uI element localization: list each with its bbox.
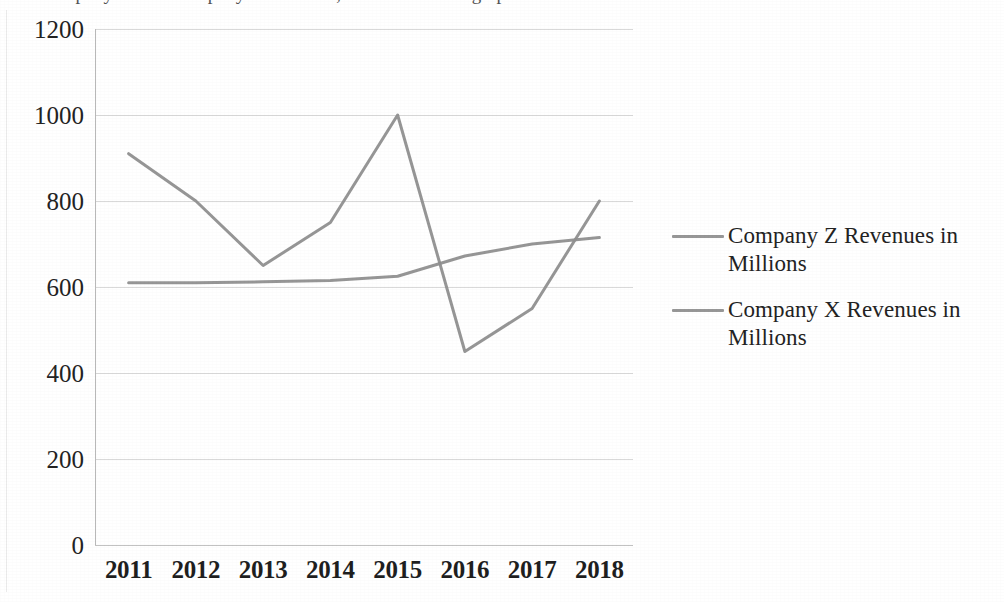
x-tick-label-2017: 2017 bbox=[499, 557, 566, 591]
legend-line-swatch-company-x bbox=[672, 309, 724, 312]
document-page: Company X and Company Z revenues, as sho… bbox=[0, 0, 1004, 602]
legend-item-company-z: Company Z Revenues in Millions bbox=[672, 222, 992, 278]
x-tick-label-2013: 2013 bbox=[230, 557, 297, 591]
x-axis-labels: 2011 2012 2013 2014 2015 2016 2017 2018 bbox=[95, 557, 633, 591]
x-tick-label-2012: 2012 bbox=[162, 557, 229, 591]
x-tick-label-2018: 2018 bbox=[566, 557, 633, 591]
x-tick-label-2015: 2015 bbox=[364, 557, 431, 591]
series-line-2 bbox=[129, 238, 600, 283]
x-tick-label-2016: 2016 bbox=[431, 557, 498, 591]
legend-label-company-x: Company X Revenues in Millions bbox=[728, 296, 978, 352]
x-tick-label-2011: 2011 bbox=[95, 557, 162, 591]
legend-line-swatch-company-z bbox=[672, 235, 724, 238]
legend-item-company-x: Company X Revenues in Millions bbox=[672, 296, 992, 352]
x-tick-label-2014: 2014 bbox=[297, 557, 364, 591]
series-line-1 bbox=[129, 115, 600, 352]
legend-label-company-z: Company Z Revenues in Millions bbox=[728, 222, 978, 278]
line-chart: 1200 1000 800 600 400 200 0 2011 2012 20… bbox=[0, 0, 1004, 602]
chart-legend: Company Z Revenues in Millions Company X… bbox=[672, 222, 992, 370]
